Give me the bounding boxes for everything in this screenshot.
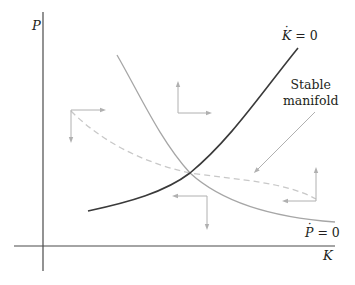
p-variable: ·P xyxy=(305,225,313,240)
arrow-group-upper-middle xyxy=(178,84,209,113)
p-equation: = 0 xyxy=(317,225,339,240)
manifold-pointer-arrow-icon xyxy=(256,112,315,171)
manifold-label-line1: Stable xyxy=(283,77,339,93)
y-axis-label: P xyxy=(32,18,41,33)
x-axis-label: K xyxy=(323,248,333,263)
axes xyxy=(14,12,335,271)
stable-manifold-curve xyxy=(71,111,316,199)
p-dot-zero-label: ·P = 0 xyxy=(305,225,340,240)
dot-accent: · xyxy=(285,21,289,34)
arrow-group-lower-middle xyxy=(175,196,207,227)
dot-accent: · xyxy=(308,218,312,231)
stable-manifold-label: Stable manifold xyxy=(283,77,339,109)
k-dot-zero-curve xyxy=(88,48,298,211)
manifold-label-line2: manifold xyxy=(283,93,339,109)
k-equation: = 0 xyxy=(295,28,317,43)
k-dot-zero-label: ·K = 0 xyxy=(282,28,318,43)
k-variable: ·K xyxy=(282,28,291,43)
direction-arrows xyxy=(71,84,316,227)
arrow-group-lower-right xyxy=(285,170,316,201)
